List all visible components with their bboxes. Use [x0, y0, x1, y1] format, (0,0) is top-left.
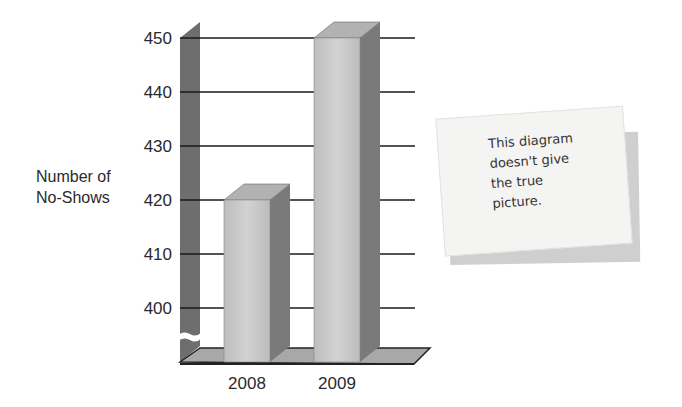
bar-2008	[224, 184, 290, 362]
svg-text:430: 430	[144, 137, 172, 156]
back-wall	[180, 22, 200, 362]
sticky-note-text: This diagram doesn't give the true pictu…	[488, 125, 623, 214]
svg-text:450: 450	[144, 29, 172, 48]
svg-text:410: 410	[144, 245, 172, 264]
bar-2009	[314, 22, 380, 362]
y-axis-label: Number of No-Shows	[36, 166, 111, 208]
svg-text:400: 400	[144, 299, 172, 318]
sticky-note: This diagram doesn't give the true pictu…	[435, 106, 634, 259]
svg-text:440: 440	[144, 83, 172, 102]
x-label-2009: 2009	[318, 374, 356, 393]
sticky-note-paper: This diagram doesn't give the true pictu…	[435, 106, 632, 257]
svg-text:420: 420	[144, 191, 172, 210]
floor	[180, 348, 430, 364]
y-tick-labels: 450 440 430 420 410 400	[144, 29, 172, 318]
x-label-2008: 2008	[228, 374, 266, 393]
